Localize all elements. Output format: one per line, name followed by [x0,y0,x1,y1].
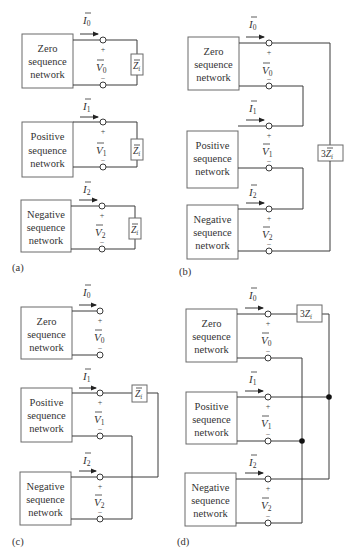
svg-text:sequence: sequence [27,222,66,233]
svg-text:sequence: sequence [192,414,231,425]
svg-text:I0: I0 [82,286,91,300]
svg-text:I1: I1 [248,373,257,387]
svg-text:network: network [29,342,64,353]
svg-text:−: − [267,75,272,84]
svg-text:V1: V1 [261,417,272,431]
terminal-plus [100,37,106,43]
svg-text:−: − [98,425,103,434]
svg-text:−: − [266,512,271,521]
svg-text:sequence: sequence [27,329,66,340]
svg-text:sequence: sequence [28,56,67,67]
svg-text:−: − [267,240,272,249]
sequence-network-diagram: Zero sequence network I0 + V0 − Zf Posit… [0,0,350,556]
caption-b: (b) [179,266,192,278]
panel-b: Zero sequence network I0 + V0 − Positive… [179,17,343,278]
svg-text:−: − [98,344,103,353]
svg-text:network: network [30,158,65,169]
voltage-label-v0: V0 [96,61,107,75]
svg-text:sequence: sequence [191,495,230,506]
positive-sequence-network-d: Positive sequence network [186,392,237,444]
svg-text:+: + [100,211,105,220]
svg-text:+: + [101,45,106,54]
svg-text:network: network [30,69,65,80]
svg-text:network: network [195,240,230,251]
svg-text:V0: V0 [94,331,105,345]
svg-text:+: + [266,319,271,328]
negative-sequence-network-d: Negative sequence network [185,473,236,526]
svg-text:Positive: Positive [196,140,230,151]
svg-text:I1: I1 [82,370,91,384]
svg-text:I2: I2 [82,454,91,468]
svg-text:+: + [101,127,106,136]
positive-sequence-network-c: Positive sequence network [21,388,72,442]
svg-text:I2: I2 [248,456,257,470]
svg-text:I1: I1 [82,100,91,114]
svg-text:+: + [98,398,103,407]
svg-text:I0: I0 [248,289,257,303]
svg-text:−: − [266,347,271,356]
svg-text:Positive: Positive [31,131,65,142]
svg-text:Zero: Zero [37,316,57,327]
svg-text:network: network [193,508,228,519]
svg-text:−: − [266,430,271,439]
svg-text:network: network [29,423,64,434]
svg-text:−: − [101,156,106,165]
zero-sequence-network-d: Zero sequence network [186,309,237,362]
svg-text:+: + [98,482,103,491]
svg-text:network: network [29,235,64,246]
svg-text:Negative: Negative [194,214,232,225]
caption-d: (d) [177,536,190,548]
panel-c: Zero sequence network I0 + V0 − Positive… [12,285,158,548]
svg-text:+: + [267,48,272,57]
svg-text:I0: I0 [248,18,257,32]
svg-text:Positive: Positive [30,397,64,408]
svg-text:Negative: Negative [27,481,65,492]
zero-sequence-network-b: Zero sequence network [188,37,239,90]
svg-text:network: network [194,344,229,355]
caption-c: (c) [12,536,24,548]
svg-text:Positive: Positive [195,401,229,412]
junction-dot [299,438,305,444]
negative-sequence-network-a: Negative sequence network [21,200,71,252]
negative-sequence-network-c: Negative sequence network [20,472,71,525]
svg-text:Negative: Negative [27,209,65,220]
svg-text:−: − [267,157,272,166]
svg-text:network: network [196,72,231,83]
svg-text:+: + [267,214,272,223]
positive-sequence-network-b: Positive sequence network [187,131,238,188]
svg-text:sequence: sequence [194,59,233,70]
svg-text:+: + [98,316,103,325]
svg-text:−: − [98,508,103,517]
svg-text:sequence: sequence [28,145,67,156]
svg-text:+: + [267,131,272,140]
svg-text:Zero: Zero [202,318,222,329]
zero-sequence-network-a: Zero sequence network [22,34,73,88]
svg-text:−: − [101,74,106,83]
panel-d: Zero sequence network I0 + V0 − 3Zf Posi… [177,288,332,548]
zero-sequence-network-c: Zero sequence network [21,307,72,359]
svg-text:network: network [194,427,229,438]
svg-text:network: network [28,507,63,518]
svg-text:V2: V2 [261,499,272,513]
junction-dot [326,394,332,400]
svg-text:I2: I2 [248,186,257,200]
current-label-i0: I0 [82,14,91,28]
svg-text:Negative: Negative [192,482,230,493]
svg-text:−: − [100,238,105,247]
svg-text:sequence: sequence [27,410,66,421]
svg-text:Zero: Zero [38,43,58,54]
svg-text:sequence: sequence [193,227,232,238]
negative-sequence-network-b: Negative sequence network [187,205,238,259]
svg-text:network: network [195,166,230,177]
caption-a: (a) [12,262,24,274]
svg-text:sequence: sequence [26,494,65,505]
svg-text:sequence: sequence [192,331,231,342]
svg-text:+: + [266,402,271,411]
svg-text:I2: I2 [82,183,91,197]
panel-a: Zero sequence network I0 + V0 − Zf Posit… [12,13,143,274]
svg-text:I1: I1 [248,102,257,116]
svg-text:V0: V0 [261,334,272,348]
svg-text:sequence: sequence [193,153,232,164]
svg-text:+: + [266,484,271,493]
positive-sequence-network-a: Positive sequence network [22,122,73,177]
